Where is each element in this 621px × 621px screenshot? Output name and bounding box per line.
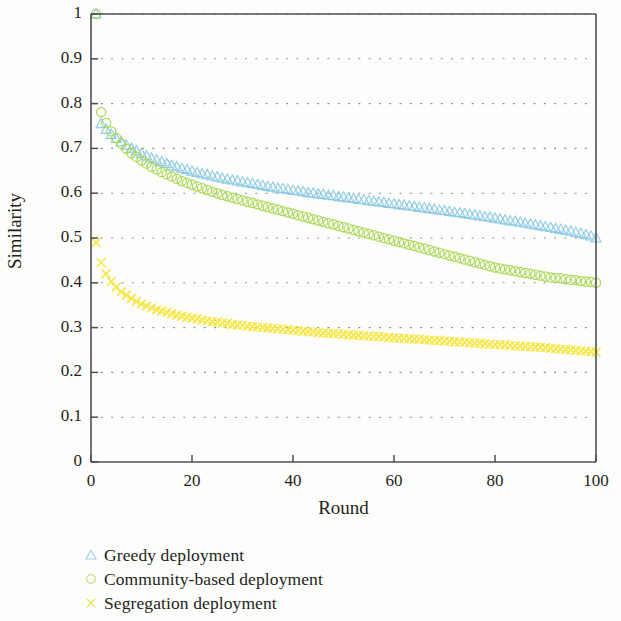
x-axis-title: Round [91, 497, 596, 519]
chart-legend: Greedy deployment Community-based deploy… [78, 543, 598, 615]
x-tick-label: 100 [566, 471, 621, 491]
triangle-marker-icon [78, 548, 104, 562]
x-tick-label: 20 [162, 471, 222, 491]
series-triangle [91, 9, 601, 242]
y-tick-label: 0.6 [34, 182, 82, 202]
y-tick-label: 0.5 [34, 227, 82, 247]
plot-area [0, 0, 621, 621]
x-tick-label: 0 [61, 471, 121, 491]
data-series-layer [91, 9, 601, 357]
legend-item-community: Community-based deployment [78, 567, 598, 591]
circle-marker-icon [78, 572, 104, 586]
y-tick-label: 0.4 [34, 272, 82, 292]
y-tick-label: 0.1 [34, 406, 82, 426]
y-tick-label: 1 [34, 3, 82, 23]
y-axis-title: Similarity [0, 0, 30, 462]
legend-label-community: Community-based deployment [104, 569, 323, 590]
y-axis-title-text: Similarity [4, 193, 26, 269]
legend-label-segregation: Segregation deployment [104, 593, 277, 614]
y-tick-label: 0.3 [34, 317, 82, 337]
axis-ticks [91, 14, 596, 462]
axes-frame [91, 14, 596, 462]
y-tick-label: 0.8 [34, 93, 82, 113]
y-tick-label: 0.9 [34, 48, 82, 68]
x-tick-label: 80 [465, 471, 525, 491]
chart-figure: Similarity Round 00.10.20.30.40.50.60.70… [0, 0, 621, 621]
x-tick-label: 60 [364, 471, 424, 491]
y-tick-label: 0 [34, 451, 82, 471]
x-marker-icon [78, 596, 104, 610]
series-x [92, 238, 601, 356]
legend-item-greedy: Greedy deployment [78, 543, 598, 567]
gridlines [91, 14, 596, 417]
x-tick-label: 40 [263, 471, 323, 491]
y-tick-label: 0.2 [34, 361, 82, 381]
y-tick-label: 0.7 [34, 137, 82, 157]
legend-label-greedy: Greedy deployment [104, 545, 244, 566]
legend-item-segregation: Segregation deployment [78, 591, 598, 615]
